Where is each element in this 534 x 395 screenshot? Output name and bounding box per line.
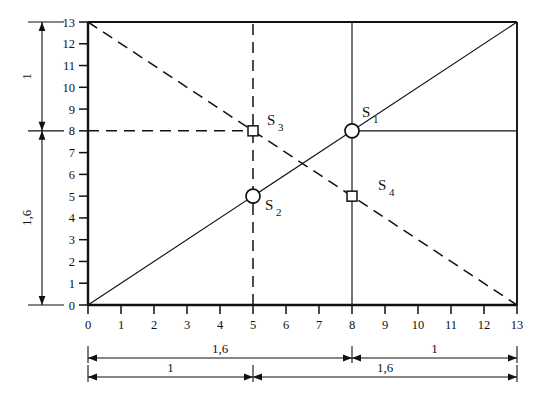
x-tick-label-7: 7 [316, 318, 322, 332]
figure-container: 012345678910111213012345678910111213 S1S… [0, 0, 534, 395]
y-tick-label-2: 2 [69, 255, 75, 269]
x-tick-label-8: 8 [349, 318, 355, 332]
point-label-subscript: 2 [276, 206, 282, 218]
horiz-dim-upper-label-horiz-upper-right: 1 [431, 341, 438, 356]
y-tick-label-1: 1 [69, 277, 75, 291]
golden-ratio-construction-chart: 012345678910111213012345678910111213 S1S… [0, 0, 534, 395]
marker-circle-S2 [246, 189, 260, 203]
x-tick-label-10: 10 [412, 318, 425, 332]
vert-dim-label-vert-upper: 1 [19, 73, 34, 80]
x-tick-label-9: 9 [382, 318, 388, 332]
y-tick-label-10: 10 [63, 81, 76, 95]
y-tick-label-0: 0 [69, 299, 75, 313]
y-tick-label-9: 9 [69, 103, 75, 117]
x-tick-label-13: 13 [511, 318, 524, 332]
point-label-letter: S [267, 112, 275, 128]
y-tick-label-4: 4 [69, 211, 76, 225]
point-label-letter: S [378, 177, 386, 193]
y-tick-label-11: 11 [63, 59, 75, 73]
x-tick-label-11: 11 [445, 318, 457, 332]
x-tick-label-1: 1 [118, 318, 124, 332]
point-label-subscript: 4 [389, 186, 395, 198]
y-tick-label-7: 7 [69, 146, 75, 160]
point-label-subscript: 1 [373, 113, 379, 125]
horiz-dim-lower-label-horiz-lower-right: 1,6 [377, 360, 394, 375]
x-tick-label-4: 4 [217, 318, 224, 332]
point-label-subscript: 3 [278, 121, 284, 133]
horiz-dim-upper-label-horiz-upper-left: 1,6 [212, 341, 229, 356]
y-tick-label-8: 8 [69, 124, 75, 138]
vert-dim-label-vert-lower: 1,6 [19, 209, 34, 226]
y-tick-label-5: 5 [69, 190, 75, 204]
x-tick-label-2: 2 [151, 318, 157, 332]
x-tick-label-3: 3 [184, 318, 190, 332]
y-tick-label-3: 3 [69, 233, 75, 247]
marker-square-S4 [347, 191, 357, 201]
x-tick-label-6: 6 [283, 318, 289, 332]
x-tick-label-0: 0 [85, 318, 91, 332]
x-tick-label-5: 5 [250, 318, 256, 332]
point-label-letter: S [265, 197, 273, 213]
x-tick-label-12: 12 [478, 318, 491, 332]
y-tick-label-13: 13 [63, 16, 76, 30]
point-label-letter: S [362, 104, 370, 120]
marker-circle-S1 [345, 124, 359, 138]
marker-square-S3 [248, 126, 258, 136]
horiz-dim-lower-label-horiz-lower-left: 1 [167, 360, 174, 375]
y-tick-label-12: 12 [63, 37, 76, 51]
y-tick-label-6: 6 [69, 168, 75, 182]
